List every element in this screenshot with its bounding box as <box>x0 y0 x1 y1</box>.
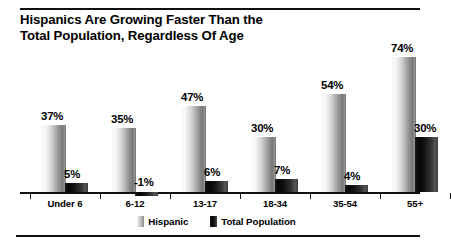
plot-area: 37%5%Under 635%-1%6-1247%6%13-1730%7%18-… <box>20 44 420 194</box>
value-label-total-population: 5% <box>64 168 80 180</box>
x-axis-label: 55+ <box>392 198 438 209</box>
legend-swatch-icon-total-population <box>210 216 217 227</box>
top-divider <box>20 8 420 10</box>
bar-hispanic <box>392 57 416 192</box>
value-label-hispanic: 37% <box>41 110 63 122</box>
legend-label-hispanic: Hispanic <box>148 216 188 227</box>
bar-hispanic <box>42 125 66 193</box>
bar-group: 74%30%55+ <box>392 44 438 192</box>
legend-item-hispanic: Hispanic <box>137 216 188 227</box>
value-label-total-population: 7% <box>274 164 290 176</box>
bar-hispanic <box>322 94 346 193</box>
x-axis-label: 13-17 <box>182 198 228 209</box>
chart-title-line-1: Hispanics Are Growing Faster Than the <box>20 12 350 28</box>
chart-title-line-2: Total Population, Regardless Of Age <box>20 28 350 44</box>
legend-swatch-icon-hispanic <box>137 216 144 227</box>
x-axis-label: 6-12 <box>112 198 158 209</box>
bottom-divider <box>16 235 420 237</box>
value-label-hispanic: 35% <box>111 113 133 125</box>
bar-total-population <box>205 181 228 192</box>
x-axis-label: 35-54 <box>322 198 368 209</box>
value-label-total-population: -1% <box>134 176 154 188</box>
legend-item-total-population: Total Population <box>210 216 295 227</box>
bar-total-population <box>275 179 298 192</box>
bar-group: 37%5%Under 6 <box>42 44 88 192</box>
value-label-total-population: 30% <box>414 122 436 134</box>
x-axis-tick <box>380 193 381 199</box>
bar-total-population <box>65 183 88 192</box>
value-label-hispanic: 30% <box>251 122 273 134</box>
legend-label-total-population: Total Population <box>221 216 295 227</box>
bar-total-population <box>415 137 438 192</box>
chart-title: Hispanics Are Growing Faster Than the To… <box>20 12 350 43</box>
value-label-total-population: 4% <box>344 170 360 182</box>
value-label-hispanic: 54% <box>321 79 343 91</box>
bar-group: 30%7%18-34 <box>252 44 298 192</box>
x-axis-line <box>20 192 420 194</box>
x-axis-label: Under 6 <box>42 198 88 209</box>
bar-total-population <box>345 185 368 192</box>
chart-legend: Hispanic Total Population <box>0 216 433 227</box>
bar-hispanic <box>252 137 276 192</box>
value-label-total-population: 6% <box>204 166 220 178</box>
bar-hispanic <box>182 106 206 192</box>
bar-hispanic <box>112 128 136 192</box>
x-axis-tick <box>310 193 311 199</box>
x-axis-tick <box>100 193 101 199</box>
x-axis-tick <box>240 193 241 199</box>
value-label-hispanic: 74% <box>391 42 413 54</box>
x-axis-tick <box>30 193 31 199</box>
x-axis-tick <box>170 193 171 199</box>
bar-group: 35%-1%6-12 <box>112 44 158 192</box>
x-axis-label: 18-34 <box>252 198 298 209</box>
bar-group: 47%6%13-17 <box>182 44 228 192</box>
bar-group: 54%4%35-54 <box>322 44 368 192</box>
value-label-hispanic: 47% <box>181 91 203 103</box>
bar-total-population <box>135 192 158 196</box>
